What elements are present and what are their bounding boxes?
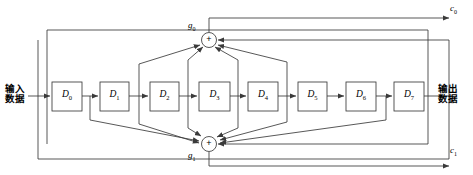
taps-to-g1 bbox=[90, 96, 386, 143]
output-data-label: 输出 数据 bbox=[434, 84, 462, 104]
register-label-D0: D0 bbox=[52, 90, 82, 102]
register-label-D2-sub: 2 bbox=[166, 94, 169, 101]
register-label-D0-sub: 0 bbox=[69, 94, 72, 101]
register-label-D3-sub: 3 bbox=[216, 94, 219, 101]
register-label-D2: D2 bbox=[150, 90, 179, 102]
encoder-diagram: 输入 数据 输出 数据 D0 D1 D2 D3 D4 D5 D6 D7 + + … bbox=[0, 0, 473, 175]
register-label-D3: D3 bbox=[199, 90, 230, 102]
output-data-label-line2: 数据 bbox=[434, 94, 462, 104]
register-label-D5-sub: 5 bbox=[314, 94, 317, 101]
register-label-D5: D5 bbox=[298, 90, 327, 102]
output-label-c0-sub: 0 bbox=[454, 9, 457, 15]
input-data-label: 输入 数据 bbox=[2, 84, 28, 104]
diagram-canvas bbox=[0, 0, 473, 175]
input-data-label-line2: 数据 bbox=[2, 94, 28, 104]
register-label-D1-sub: 1 bbox=[116, 94, 119, 101]
adder-label-g1: g1 bbox=[188, 151, 196, 162]
register-label-D6-base: D bbox=[356, 89, 363, 99]
register-label-D7-sub: 7 bbox=[411, 94, 414, 101]
register-label-D4: D4 bbox=[248, 90, 278, 102]
output-label-c1: c1 bbox=[450, 146, 457, 157]
adder-label-g1-sub: 1 bbox=[193, 156, 196, 162]
output-label-c0: c0 bbox=[450, 4, 457, 15]
register-label-D1: D1 bbox=[100, 90, 129, 102]
register-label-D0-base: D bbox=[62, 89, 69, 99]
register-label-D4-sub: 4 bbox=[265, 94, 268, 101]
register-label-D6: D6 bbox=[346, 90, 376, 102]
register-label-D7-base: D bbox=[404, 89, 411, 99]
adder-label-g0: g0 bbox=[188, 21, 196, 32]
adder-label-g0-sub: 0 bbox=[193, 26, 196, 32]
adder-plus-g0: + bbox=[202, 35, 217, 44]
register-label-D4-base: D bbox=[258, 89, 265, 99]
register-label-D6-sub: 6 bbox=[363, 94, 366, 101]
register-label-D7: D7 bbox=[394, 90, 424, 102]
output-label-c1-sub: 1 bbox=[454, 151, 457, 157]
adder-plus-g1: + bbox=[202, 139, 217, 148]
